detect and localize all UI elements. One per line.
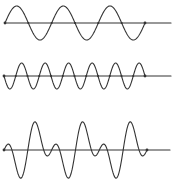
middle-sine-wave-crossing-dot — [38, 75, 40, 77]
middle-sine-wave-crossing-dot — [85, 75, 87, 77]
bottom-composite-wave-endpoint-dot — [146, 149, 149, 152]
middle-sine-wave-crossing-dot — [62, 75, 64, 77]
waveform-figure-container — [0, 0, 176, 184]
middle-sine-wave-crossing-dot — [27, 75, 29, 77]
top-sine-wave-group — [4, 6, 171, 40]
top-sine-wave-endpoint-dot — [144, 22, 147, 25]
middle-sine-wave-crossing-dot — [132, 75, 134, 77]
middle-sine-wave-crossing-dot — [50, 75, 52, 77]
top-sine-wave-crossing-dot — [97, 22, 99, 24]
middle-sine-wave-crossing-dot — [74, 75, 76, 77]
top-sine-wave-crossing-dot — [27, 22, 29, 24]
middle-sine-wave-crossing-dot — [121, 75, 123, 77]
wave-superposition-figure — [0, 0, 176, 184]
bottom-composite-wave-group — [3, 122, 170, 178]
top-sine-wave-crossing-dot — [121, 22, 123, 24]
top-sine-wave-endpoint-dot — [4, 22, 7, 25]
bottom-composite-wave-endpoint-dot — [3, 149, 6, 152]
middle-sine-wave-group — [3, 63, 171, 89]
middle-sine-wave-crossing-dot — [15, 75, 17, 77]
middle-sine-wave-endpoint-dot — [3, 75, 6, 78]
middle-sine-wave-crossing-dot — [109, 75, 111, 77]
middle-sine-wave-endpoint-dot — [144, 75, 147, 78]
middle-sine-wave-crossing-dot — [97, 75, 99, 77]
top-sine-wave-crossing-dot — [51, 22, 53, 24]
top-sine-wave-crossing-dot — [74, 22, 76, 24]
